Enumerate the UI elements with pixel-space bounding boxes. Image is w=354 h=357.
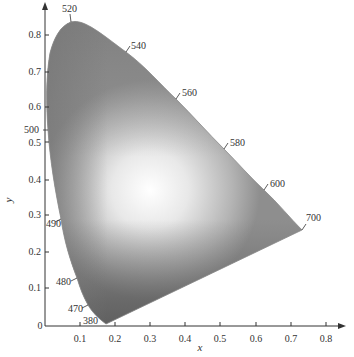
wavelength-label-480: 480 (56, 276, 71, 287)
x-axis-title: x (197, 341, 203, 353)
y-tick-label: 0.4 (29, 174, 42, 185)
y-tick-label: 0.5 (29, 137, 42, 148)
wavelength-label-700: 700 (306, 212, 321, 223)
wavelength-label-580: 580 (230, 137, 245, 148)
x-tick-label: 0.7 (285, 333, 298, 344)
y-tick-labels: 0.1 0.2 0.3 0.4 0.5 0.6 0.7 0.8 0 (29, 29, 43, 331)
y-tick-label: 0.1 (29, 282, 42, 293)
y-axis-arrow-icon (42, 2, 48, 10)
x-tick-labels: 0.1 0.2 0.3 0.4 0.5 0.6 0.7 0.8 (74, 333, 333, 344)
x-tick-label: 0.3 (144, 333, 157, 344)
y-tick-label: 0.8 (29, 29, 42, 40)
y-tick-label: 0.3 (29, 209, 42, 220)
x-tick-label: 0.1 (74, 333, 87, 344)
x-tick-label: 0.2 (109, 333, 122, 344)
y-tick-label: 0.7 (29, 66, 42, 77)
chromaticity-chart: 0.1 0.2 0.3 0.4 0.5 0.6 0.7 0.8 0.1 0.2 … (0, 0, 354, 357)
wavelength-label-490: 490 (46, 218, 61, 229)
x-tick-label: 0.4 (179, 333, 192, 344)
x-ticks (80, 322, 326, 326)
x-tick-label: 0.6 (250, 333, 263, 344)
y-tick-label: 0.6 (29, 101, 42, 112)
wavelength-label-560: 560 (182, 87, 197, 98)
x-tick-label: 0.8 (320, 333, 333, 344)
wavelength-label-470: 470 (68, 303, 83, 314)
y-tick-label: 0.2 (29, 246, 42, 257)
wavelength-label-520: 520 (62, 3, 77, 14)
y-axis-title: y (2, 197, 14, 203)
origin-label: 0 (38, 320, 43, 331)
wavelength-label-540: 540 (131, 40, 146, 51)
spectral-locus-fill (40, 15, 310, 330)
x-axis-arrow-icon (338, 323, 346, 329)
x-tick-label: 0.5 (214, 333, 227, 344)
wavelength-label-500: 500 (24, 124, 39, 135)
wavelength-label-380: 380 (83, 315, 98, 326)
wavelength-label-600: 600 (270, 178, 285, 189)
y-axis (42, 2, 48, 326)
